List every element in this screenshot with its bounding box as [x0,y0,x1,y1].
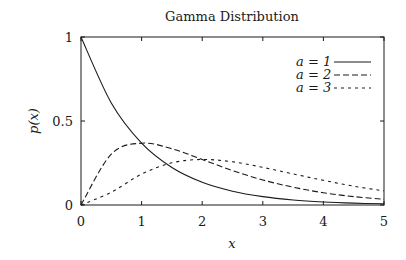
legend-label: a = 3 [296,80,331,95]
legend: a = 1a = 2a = 3 [296,54,371,95]
x-tick-label: 4 [319,214,327,229]
curve-a3 [81,159,384,205]
x-tick-label: 3 [259,214,267,229]
x-axis-ticks: 012345 [77,37,388,229]
y-axis-ticks: 00.51 [52,30,384,213]
x-tick-label: 0 [77,214,85,229]
y-tick-label: 0 [65,198,73,213]
y-axis-label: p(x) [26,108,41,134]
x-tick-label: 2 [198,214,206,229]
chart-title: Gamma Distribution [165,9,299,24]
x-tick-label: 5 [380,214,388,229]
x-tick-label: 1 [137,214,145,229]
curve-a2 [81,143,384,205]
gamma-chart: Gamma Distribution 012345 00.51 x p(x) a… [0,0,406,260]
y-tick-label: 0.5 [52,114,73,129]
x-axis-label: x [228,236,236,251]
y-tick-label: 1 [65,30,73,45]
